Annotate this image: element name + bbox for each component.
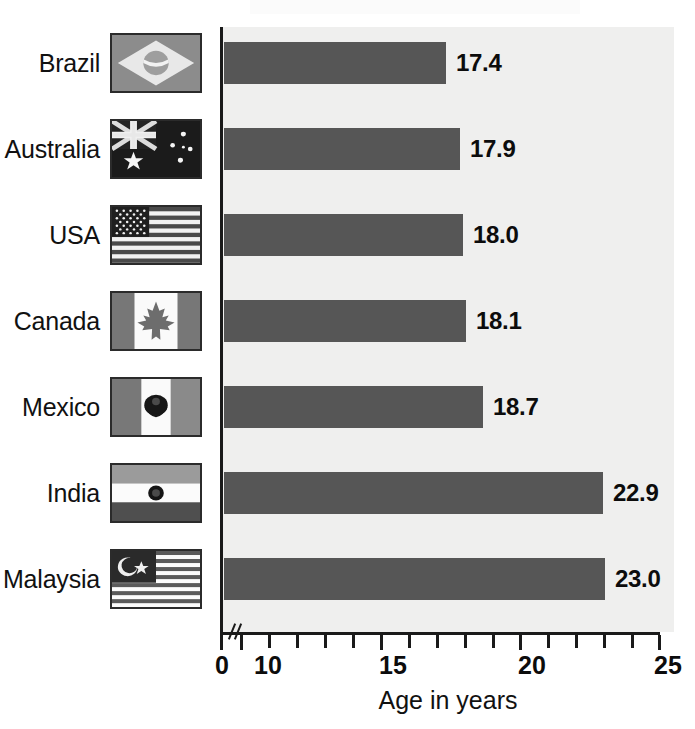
x-tick-label-10: 10 xyxy=(254,651,282,680)
x-tick-minor xyxy=(408,635,411,648)
chart-row: India 22.9 xyxy=(0,450,695,536)
chart-row: USA xyxy=(0,192,695,278)
bar-brazil xyxy=(224,42,446,84)
chart-row: Brazil 17.4 xyxy=(0,20,695,106)
x-tick-minor xyxy=(575,635,578,648)
x-tick-label-20: 20 xyxy=(518,651,546,680)
x-tick-major-0 xyxy=(220,635,223,650)
x-tick-major-15 xyxy=(380,635,383,650)
chart-row: Australia 17.9 xyxy=(0,106,695,192)
cropped-title-remnant xyxy=(250,0,580,14)
category-label-malaysia: Malaysia xyxy=(0,565,100,594)
x-tick-minor xyxy=(436,635,439,648)
bar-value-australia: 17.9 xyxy=(470,135,516,163)
x-tick-minor xyxy=(268,635,271,648)
category-label-brazil: Brazil xyxy=(0,49,100,78)
bar-value-malaysia: 23.0 xyxy=(615,565,661,593)
x-axis-line xyxy=(220,632,660,635)
flag-brazil-icon xyxy=(110,33,202,93)
bar-australia xyxy=(224,128,460,170)
bar-usa xyxy=(224,214,463,256)
flag-canada-icon xyxy=(110,291,202,351)
bar-value-mexico: 18.7 xyxy=(493,393,539,421)
x-tick-minor xyxy=(352,635,355,648)
x-axis-title: Age in years xyxy=(222,686,674,715)
chart-row: Malaysia 23.0 xyxy=(0,536,695,622)
bar-value-canada: 18.1 xyxy=(476,307,522,335)
x-tick-minor xyxy=(324,635,327,648)
x-tick-major-25 xyxy=(658,635,661,650)
category-label-mexico: Mexico xyxy=(0,393,100,422)
chart-row: Mexico 18.7 xyxy=(0,364,695,450)
bar-mexico xyxy=(224,386,483,428)
bar-value-india: 22.9 xyxy=(613,479,659,507)
category-label-usa: USA xyxy=(0,221,100,250)
bar-malaysia xyxy=(224,558,605,600)
x-tick-label-15: 15 xyxy=(379,651,407,680)
bar-india xyxy=(224,472,603,514)
bar-canada xyxy=(224,300,466,342)
flag-mexico-icon xyxy=(110,377,202,437)
bar-value-usa: 18.0 xyxy=(473,221,519,249)
x-tick-major-10 xyxy=(240,635,243,650)
category-label-canada: Canada xyxy=(0,307,100,336)
category-label-india: India xyxy=(0,479,100,508)
x-tick-minor xyxy=(296,635,299,648)
x-tick-major-20 xyxy=(519,635,522,650)
x-tick-minor xyxy=(603,635,606,648)
chart-row: Canada 18.1 xyxy=(0,278,695,364)
horizontal-bar-chart: Brazil 17.4 Australia xyxy=(0,0,695,729)
flag-malaysia-icon xyxy=(110,549,202,609)
x-tick-minor xyxy=(464,635,467,648)
x-tick-minor xyxy=(492,635,495,648)
flag-usa-icon xyxy=(110,205,202,265)
flag-india-icon xyxy=(110,463,202,523)
x-tick-minor xyxy=(631,635,634,648)
x-tick-minor xyxy=(547,635,550,648)
x-tick-label-25: 25 xyxy=(654,651,682,680)
bar-value-brazil: 17.4 xyxy=(456,49,502,77)
flag-australia-icon xyxy=(110,119,202,179)
x-tick-label-0: 0 xyxy=(215,651,229,680)
category-label-australia: Australia xyxy=(0,135,100,164)
